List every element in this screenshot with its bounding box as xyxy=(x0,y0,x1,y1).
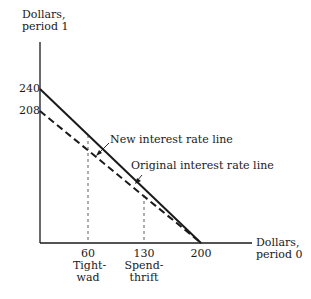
x-tick-130: 130 Spend- thrift xyxy=(124,248,164,284)
y-tick-208: 208 xyxy=(19,105,40,117)
original-interest-rate-line xyxy=(40,111,201,243)
original-interest-rate-label: Original interest rate line xyxy=(131,160,274,172)
x-tick-200: 200 xyxy=(188,248,214,260)
y-tick-240: 240 xyxy=(19,83,40,95)
x-axis-label: Dollars, period 0 xyxy=(256,237,303,261)
y-axis-label: Dollars, period 1 xyxy=(22,9,69,33)
new-interest-rate-label: New interest rate line xyxy=(110,134,233,146)
x-tick-60: 60 Tight- wad xyxy=(73,248,103,284)
